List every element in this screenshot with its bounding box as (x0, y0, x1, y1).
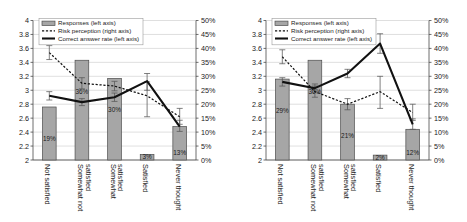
left-axis-tick-label: 3.6 (19, 44, 29, 53)
chart-panel-right: 450%3.845%3.640%3.435%3.230%325%2.820%2.… (233, 0, 466, 222)
bar (42, 107, 56, 160)
right-axis-tick-label: 20% (434, 100, 449, 109)
right-axis-tick-label: 25% (201, 86, 216, 95)
left-axis-tick-label: 3.2 (19, 72, 29, 81)
right-axis-tick-label: 0% (201, 156, 212, 165)
left-axis-tick-label: 2.2 (252, 142, 262, 151)
right-axis-tick-label: 50% (201, 16, 216, 25)
category-label: Not satisfied (276, 164, 285, 205)
legend-label-responses: Responses (left axis) (291, 19, 349, 26)
category-label: Not satisfied (43, 164, 52, 205)
left-axis-tick-label: 4 (258, 16, 262, 25)
legend-label-correct_answer_rate: Correct answer rate (left axis) (291, 35, 372, 42)
left-axis-tick-label: 2.6 (252, 114, 262, 123)
left-axis-tick-label: 2.4 (19, 128, 29, 137)
left-axis-tick-label: 3.4 (252, 58, 262, 67)
left-axis-tick-label: 3.8 (19, 30, 29, 39)
bar (275, 79, 289, 160)
category-label: Satisfied (374, 164, 383, 192)
category-label: satisfied (84, 164, 93, 191)
left-axis-tick-label: 2 (258, 156, 262, 165)
left-axis-tick-label: 2.8 (19, 100, 29, 109)
left-axis-tick-label: 4 (25, 16, 29, 25)
left-axis-tick-label: 3.8 (252, 30, 262, 39)
bar-value-label: 36% (76, 88, 89, 95)
bar-value-label: 21% (341, 132, 354, 139)
right-axis-tick-label: 15% (201, 114, 216, 123)
left-axis-tick-label: 2 (25, 156, 29, 165)
right-axis-tick-label: 45% (434, 30, 449, 39)
right-axis-tick-label: 15% (434, 114, 449, 123)
left-axis-tick-label: 3.4 (19, 58, 29, 67)
right-axis-tick-label: 45% (201, 30, 216, 39)
left-axis-tick-label: 3.6 (252, 44, 262, 53)
right-axis-tick-label: 40% (201, 44, 216, 53)
bar-value-label: 13% (173, 149, 186, 156)
legend-swatch-responses (275, 21, 288, 25)
legend-label-risk_perception: Risk perception (right axis) (291, 27, 364, 34)
category-label: Satisfied (141, 164, 150, 192)
figure-root: 450%3.845%3.640%3.435%3.230%325%2.820%2.… (0, 0, 467, 222)
chart-panel-left: 450%3.845%3.640%3.435%3.230%325%2.820%2.… (0, 0, 233, 222)
bar-value-label: 2% (375, 154, 385, 161)
right-axis-tick-label: 0% (434, 156, 445, 165)
bar-value-label: 12% (406, 149, 419, 156)
left-axis-tick-label: 2.4 (252, 128, 262, 137)
bar (308, 60, 322, 160)
right-axis-tick-label: 30% (434, 72, 449, 81)
category-label: Never thought (407, 164, 416, 210)
left-axis-tick-label: 3 (258, 86, 262, 95)
left-axis-tick-label: 2.8 (252, 100, 262, 109)
right-axis-tick-label: 10% (201, 128, 216, 137)
right-axis-tick-label: 25% (434, 86, 449, 95)
bar-value-label: 19% (43, 135, 56, 142)
category-label: satisfied (349, 164, 358, 191)
left-axis-tick-label: 2.2 (19, 142, 29, 151)
legend-swatch-responses (42, 21, 55, 25)
right-axis-tick-label: 40% (434, 44, 449, 53)
category-label: satisfied (317, 164, 326, 191)
right-axis-tick-label: 35% (434, 58, 449, 67)
right-axis-tick-label: 5% (434, 142, 445, 151)
bar (75, 60, 89, 160)
right-axis-tick-label: 5% (201, 142, 212, 151)
bar-value-label: 29% (276, 107, 289, 114)
left-axis-tick-label: 3.2 (252, 72, 262, 81)
category-label: satisfied (116, 164, 125, 191)
legend-label-correct_answer_rate: Correct answer rate (left axis) (58, 35, 139, 42)
right-axis-tick-label: 10% (434, 128, 449, 137)
category-label: Never thought (174, 164, 183, 210)
legend-label-risk_perception: Risk perception (right axis) (58, 27, 131, 34)
right-axis-tick-label: 30% (201, 72, 216, 81)
chart-svg-left: 450%3.845%3.640%3.435%3.230%325%2.820%2.… (0, 0, 233, 222)
left-axis-tick-label: 3 (25, 86, 29, 95)
right-axis-tick-label: 35% (201, 58, 216, 67)
bar-value-label: 3% (142, 153, 152, 160)
legend-label-responses: Responses (left axis) (58, 19, 116, 26)
chart-svg-right: 450%3.845%3.640%3.435%3.230%325%2.820%2.… (233, 0, 466, 222)
bar-value-label: 30% (108, 106, 121, 113)
right-axis-tick-label: 20% (201, 100, 216, 109)
right-axis-tick-label: 50% (434, 16, 449, 25)
left-axis-tick-label: 2.6 (19, 114, 29, 123)
